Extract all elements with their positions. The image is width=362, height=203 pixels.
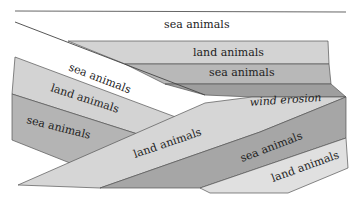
label-top-sea: sea animals <box>164 18 230 31</box>
strata-diagram: sea animals land animals sea animals sea… <box>0 0 362 203</box>
top-boundary-line <box>15 11 346 12</box>
label-upper-sea: sea animals <box>209 66 275 79</box>
label-upper-land: land animals <box>193 46 264 59</box>
